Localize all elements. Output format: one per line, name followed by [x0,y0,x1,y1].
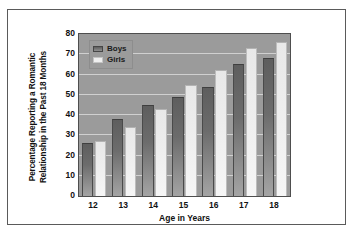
y-axis-tick-label: 50 [57,89,75,91]
chart-figure: Percentage Reporting a Romantic Relation… [0,0,359,243]
x-axis-title: Age in Years [78,213,291,223]
x-axis-tick-label: 18 [261,200,287,210]
y-axis-tick-label: 60 [57,69,75,71]
plot-area: Boys Girls [78,33,291,197]
bar-girls-age-17 [246,48,258,196]
bar-girls-age-14 [155,109,167,196]
y-axis-tick-label: 30 [57,130,75,132]
y-axis-title: Percentage Reporting a Romantic Relation… [23,27,53,207]
bar-group [233,34,258,196]
bar-boys-age-17 [233,64,245,196]
x-axis-tick-label: 17 [231,200,257,210]
bar-boys-age-15 [172,97,184,196]
legend-label-boys: Boys [107,44,127,53]
y-axis-tick-label: 0 [57,191,75,193]
legend-item-boys: Boys [93,43,127,54]
bar-group [142,34,167,196]
bar-girls-age-18 [276,42,288,196]
legend: Boys Girls [89,40,133,69]
bar-girls-age-15 [185,85,197,196]
y-axis-tick-label: 10 [57,170,75,172]
bar-group [172,34,197,196]
y-axis-tick-label: 20 [57,150,75,152]
bar-girls-age-12 [95,141,107,196]
legend-label-girls: Girls [107,55,125,64]
legend-item-girls: Girls [93,54,127,65]
x-axis-tick-labels: 12131415161718 [78,200,291,212]
x-axis-tick-label: 16 [201,200,227,210]
x-axis-tick-label: 12 [80,200,106,210]
y-axis-tick-labels: 01020304050607080 [53,33,75,197]
y-axis-title-line-2: Relationship in the Past 18 Months [38,51,49,183]
x-axis-tick-label: 13 [110,200,136,210]
bar-boys-age-16 [202,87,214,196]
bar-boys-age-18 [263,58,275,196]
y-axis-tick-label: 80 [57,29,75,31]
bar-group [202,34,227,196]
bar-boys-age-14 [142,105,154,196]
y-axis-tick-label: 70 [57,49,75,51]
legend-swatch-girls-icon [93,57,103,63]
y-axis-title-line-1: Percentage Reporting a Romantic [27,53,38,181]
bar-boys-age-12 [82,143,94,196]
legend-swatch-boys-icon [93,46,103,52]
figure-border: Percentage Reporting a Romantic Relation… [7,9,346,225]
y-axis-tick-label: 40 [57,110,75,112]
bar-boys-age-13 [112,119,124,196]
bar-girls-age-16 [215,70,227,196]
x-axis-tick-label: 15 [171,200,197,210]
bar-girls-age-13 [125,127,137,196]
x-axis-tick-label: 14 [140,200,166,210]
bar-group [263,34,288,196]
